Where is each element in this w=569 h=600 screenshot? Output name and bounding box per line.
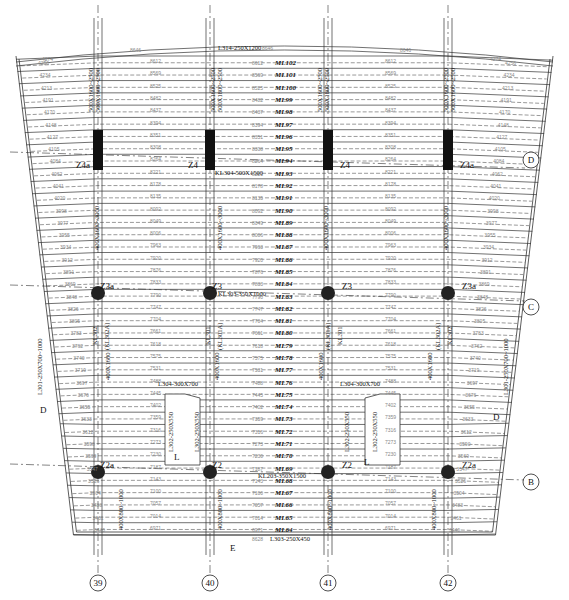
ml-label: ML97 bbox=[274, 121, 293, 129]
top-beam-label: L314-250X1200 bbox=[218, 44, 261, 51]
axis-label-B: B bbox=[528, 477, 534, 487]
right-bay-dimension: 7014 bbox=[385, 513, 396, 519]
left-opening-l302-label: L302-250X550 bbox=[193, 412, 200, 452]
joist-line bbox=[63, 448, 506, 449]
left-side-dimension: 4127 bbox=[47, 134, 58, 140]
left-side-dimension: 3569 bbox=[85, 453, 96, 459]
mid-dimension: 7187 bbox=[252, 466, 263, 472]
right-side-dimension: 3569 bbox=[458, 453, 469, 459]
left-bay-dimension: 7230 bbox=[150, 451, 161, 457]
right-bay-dimension: 8612 bbox=[385, 58, 396, 64]
mid-dimension: 7014 bbox=[252, 515, 263, 521]
ml-label: ML64 bbox=[274, 526, 293, 534]
ml-label: ML65 bbox=[274, 514, 293, 522]
dim-top-span-mid: 8646 bbox=[262, 45, 273, 51]
col-beam-top-3b: 500X1800~2500 bbox=[323, 68, 330, 112]
col-beam-mid-4: 400X1600~3000 bbox=[442, 206, 449, 250]
ml-label: ML93 bbox=[274, 170, 293, 178]
right-side-dimension: 3891 bbox=[480, 269, 491, 275]
right-bay-dimension: 8525 bbox=[385, 83, 396, 89]
ml-label: ML89 bbox=[274, 219, 293, 227]
left-side-dimension: 3805 bbox=[69, 318, 80, 324]
left-side-dimension: 4213 bbox=[41, 85, 52, 91]
left-bay-dimension: 8006 bbox=[150, 230, 161, 236]
left-bay-dimension: 8569 bbox=[150, 70, 161, 76]
left-edge-beam-label: L301-250X700~1000 bbox=[36, 338, 43, 395]
left-bay-dimension: 7014 bbox=[150, 513, 161, 519]
left-side-dimension: 3719 bbox=[75, 367, 86, 373]
ml-label: ML77 bbox=[274, 366, 293, 374]
col-beam-lower-2: 400X1600 bbox=[213, 353, 220, 380]
left-bay-dimension: 7100 bbox=[150, 488, 161, 494]
mid-dimension: 7618 bbox=[252, 343, 263, 349]
ml-label: ML84 bbox=[274, 280, 293, 288]
joist-line bbox=[65, 460, 505, 461]
left-side-dimension: 3461 bbox=[93, 515, 104, 521]
right-l304-label: L304-300X700 bbox=[340, 380, 380, 387]
bottom-beam-label: L303-250X450 bbox=[270, 535, 310, 542]
section-mark-l-left: L bbox=[174, 452, 180, 462]
left-bay-dimension: 7747 bbox=[150, 304, 161, 310]
column-wall bbox=[93, 130, 103, 170]
ml-label: ML102 bbox=[274, 59, 297, 67]
col-beam-top-1b: 500X1600~2500 bbox=[94, 68, 101, 112]
section-mark-d-left: D bbox=[40, 405, 47, 415]
mid-dimension: 8006 bbox=[252, 232, 263, 238]
left-side-dimension: 4020 bbox=[54, 195, 65, 201]
mid-dimension: 7143 bbox=[252, 478, 263, 484]
ml-label: ML68 bbox=[274, 477, 293, 485]
right-bay-dimension: 7790 bbox=[385, 292, 396, 298]
mid-dimension: 8135 bbox=[252, 195, 263, 201]
left-side-dimension: 3676 bbox=[78, 392, 89, 398]
mid-dimension: 7488 bbox=[252, 380, 263, 386]
left-side-dimension: 3440 bbox=[94, 527, 105, 533]
right-side-dimension: 3676 bbox=[465, 392, 476, 398]
col-beam-top-4b: 500X1600~2500 bbox=[449, 68, 456, 112]
mid-dimension: 8049 bbox=[252, 220, 263, 226]
col-beam-bottom-4: 400X800~1000 bbox=[430, 489, 437, 530]
column-label: Z2a bbox=[100, 460, 114, 470]
right-bay-dimension: 8135 bbox=[385, 193, 396, 199]
left-bay-dimension: 7531 bbox=[150, 365, 161, 371]
col-beam-top-2b: 500X1800~2500 bbox=[216, 68, 223, 112]
kl301a-midright-label: (KL301A) bbox=[324, 323, 332, 350]
ml-label: ML95 bbox=[274, 145, 293, 153]
left-bay-dimension: 7661 bbox=[150, 328, 161, 334]
right-side-dimension: 3697 bbox=[467, 380, 478, 386]
right-side-dimension: 3869 bbox=[478, 281, 489, 287]
column-round bbox=[321, 286, 335, 300]
column-label: Z2 bbox=[212, 460, 222, 470]
ml-label: ML96 bbox=[274, 133, 293, 141]
right-bay-dimension: 7402 bbox=[385, 402, 396, 408]
mid-dimension: 8178 bbox=[252, 183, 263, 189]
ml-label: ML66 bbox=[274, 501, 293, 509]
ml-label: ML80 bbox=[274, 329, 293, 337]
col-beam-top-2a: 500X1600~2500 bbox=[209, 68, 216, 112]
left-side-dimension: 4084 bbox=[50, 158, 61, 164]
column-label: Z4a bbox=[460, 160, 474, 170]
left-side-dimension: 3955 bbox=[59, 232, 70, 238]
col-beam-lower-4: 400X1600 bbox=[426, 353, 433, 380]
right-bay-dimension: 8569 bbox=[385, 70, 396, 76]
right-bay-dimension: 7618 bbox=[385, 341, 396, 347]
right-bay-dimension: 7833 bbox=[385, 279, 396, 285]
left-side-dimension: 4256 bbox=[38, 60, 49, 66]
axis-label-42: 42 bbox=[444, 578, 453, 588]
right-bay-dimension: 6971 bbox=[385, 525, 396, 531]
left-bay-dimension: 8394 bbox=[150, 120, 161, 126]
right-side-dimension: 3977 bbox=[486, 220, 497, 226]
right-side-dimension: 3719 bbox=[468, 367, 479, 373]
right-side-dimension: 4191 bbox=[501, 97, 512, 103]
col-beam-mid-2: 400X1600~3000 bbox=[216, 206, 223, 250]
right-side-dimension: 3740 bbox=[470, 355, 481, 361]
ml-label: ML92 bbox=[274, 182, 293, 190]
left-side-dimension: 3483 bbox=[91, 502, 102, 508]
ml-label: ML82 bbox=[274, 305, 293, 313]
mid-dimension: 8264 bbox=[252, 158, 263, 164]
left-side-dimension: 4062 bbox=[51, 171, 62, 177]
left-bay-dimension: 7273 bbox=[150, 439, 161, 445]
left-side-dimension: 4105 bbox=[48, 146, 59, 152]
dim-top-side-right: 4274 bbox=[490, 56, 501, 62]
left-bay-dimension: 7963 bbox=[150, 242, 161, 248]
right-bay-dimension: 7531 bbox=[385, 365, 396, 371]
